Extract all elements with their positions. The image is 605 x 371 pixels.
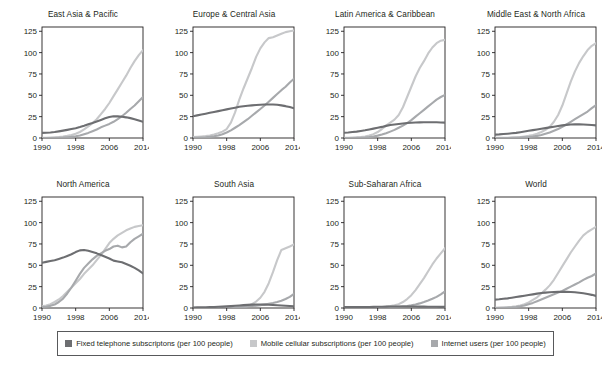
y-axis-tick-label: 100 [477,49,491,58]
y-axis-tick-label: 50 [481,91,490,100]
chart-legend: Fixed telephone subscriptons (per 100 pe… [57,331,554,356]
y-axis-tick-label: 100 [24,219,38,228]
y-axis-tick-label: 25 [481,283,490,292]
legend-swatch-icon [431,340,438,347]
panel-plot-area: 02550751001251990199820062014 [319,180,451,330]
y-axis-tick-label: 75 [481,240,490,249]
legend-items: Fixed telephone subscriptons (per 100 pe… [65,340,546,348]
panel-plot-area: 02550751001251990199820062014 [168,10,300,160]
data-line [42,234,143,307]
x-axis-tick-label: 1998 [67,143,85,152]
panel-plot-area: 02550751001251990199820062014 [470,180,602,330]
x-axis-tick-label: 2006 [402,143,420,152]
y-axis-tick-label: 50 [179,261,188,270]
panel-plot-area: 02550751001251990199820062014 [168,180,300,330]
y-axis-tick-label: 25 [330,113,339,122]
x-axis-tick-label: 1998 [520,143,538,152]
x-axis-tick-label: 2014 [134,143,149,152]
x-axis-tick-label: 2006 [402,313,420,322]
chart-panel: South Asia02550751001251990199820062014 [168,180,300,330]
panel-plot-area: 02550751001251990199820062014 [17,10,149,160]
x-axis-tick-label: 1998 [67,313,85,322]
y-axis-tick-label: 50 [179,91,188,100]
y-axis-tick-label: 100 [326,219,340,228]
data-line [344,122,445,133]
x-axis-tick-label: 2006 [553,313,571,322]
data-line [42,50,143,138]
y-axis-tick-label: 125 [175,27,189,36]
x-axis-tick-label: 2006 [100,313,118,322]
chart-panel: Sub-Saharan Africa0255075100125199019982… [319,180,451,330]
y-axis-tick-label: 75 [28,70,37,79]
y-axis-tick-label: 100 [326,49,340,58]
legend-label: Mobile cellular subscriptions (per 100 p… [261,340,414,348]
x-axis-tick-label: 2006 [553,143,571,152]
panel-plot-area: 02550751001251990199820062014 [17,180,149,330]
y-axis-tick-label: 125 [175,197,189,206]
y-axis-tick-label: 100 [175,49,189,58]
y-axis-tick-label: 0 [184,304,189,313]
legend-swatch-icon [65,340,72,347]
x-axis-tick-label: 1990 [335,143,353,152]
y-axis-tick-label: 125 [326,197,340,206]
legend-label: Internet users (per 100 people) [442,340,546,348]
x-axis-tick-label: 2014 [436,143,451,152]
y-axis-tick-label: 100 [24,49,38,58]
legend-item[interactable]: Fixed telephone subscriptons (per 100 pe… [65,340,233,348]
y-axis-tick-label: 75 [28,240,37,249]
x-axis-tick-label: 2006 [251,143,269,152]
x-axis-tick-label: 2014 [436,313,451,322]
x-axis-tick-label: 2006 [100,143,118,152]
y-axis-tick-label: 50 [330,261,339,270]
data-line [495,227,596,308]
x-axis-tick-label: 2014 [587,143,602,152]
y-axis-tick-label: 75 [179,240,188,249]
y-axis-tick-label: 0 [486,134,491,143]
chart-panel: North America025507510012519901998200620… [17,180,149,330]
y-axis-tick-label: 100 [175,219,189,228]
chart-panel: Europe & Central Asia0255075100125199019… [168,10,300,160]
panel-plot-area: 02550751001251990199820062014 [470,10,602,160]
plot-frame [42,27,143,138]
x-axis-tick-label: 2014 [285,143,300,152]
y-axis-tick-label: 25 [28,113,37,122]
y-axis-tick-label: 25 [28,283,37,292]
x-axis-tick-label: 1998 [369,143,387,152]
legend-item[interactable]: Mobile cellular subscriptions (per 100 p… [250,340,414,348]
legend-item[interactable]: Internet users (per 100 people) [431,340,546,348]
chart-figure: East Asia & Pacific025507510012519901998… [0,0,605,371]
x-axis-tick-label: 1990 [486,143,504,152]
plot-frame [495,27,596,138]
y-axis-tick-label: 75 [481,70,490,79]
chart-panel: East Asia & Pacific025507510012519901998… [17,10,149,160]
chart-panel: Middle East & North Africa02550751001251… [470,10,602,160]
data-line [42,250,143,273]
x-axis-tick-label: 2014 [285,313,300,322]
x-axis-tick-label: 1990 [335,313,353,322]
x-axis-tick-label: 1990 [33,313,51,322]
y-axis-tick-label: 50 [481,261,490,270]
data-line [344,306,445,307]
legend-swatch-icon [250,340,257,347]
y-axis-tick-label: 25 [179,113,188,122]
y-axis-tick-label: 0 [184,134,189,143]
data-line [193,244,294,308]
x-axis-tick-label: 2006 [251,313,269,322]
y-axis-tick-label: 0 [33,304,38,313]
y-axis-tick-label: 50 [330,91,339,100]
plot-frame [344,197,445,308]
x-axis-tick-label: 1998 [218,313,236,322]
y-axis-tick-label: 25 [179,283,188,292]
y-axis-tick-label: 0 [33,134,38,143]
x-axis-tick-label: 1998 [520,313,538,322]
x-axis-tick-label: 1998 [369,313,387,322]
plot-frame [495,197,596,308]
x-axis-tick-label: 2014 [134,313,149,322]
chart-panel: Latin America & Caribbean025507510012519… [319,10,451,160]
y-axis-tick-label: 125 [326,27,340,36]
x-axis-tick-label: 1990 [486,313,504,322]
y-axis-tick-label: 75 [330,240,339,249]
data-line [193,104,294,116]
y-axis-tick-label: 50 [28,91,37,100]
x-axis-tick-label: 1990 [184,143,202,152]
